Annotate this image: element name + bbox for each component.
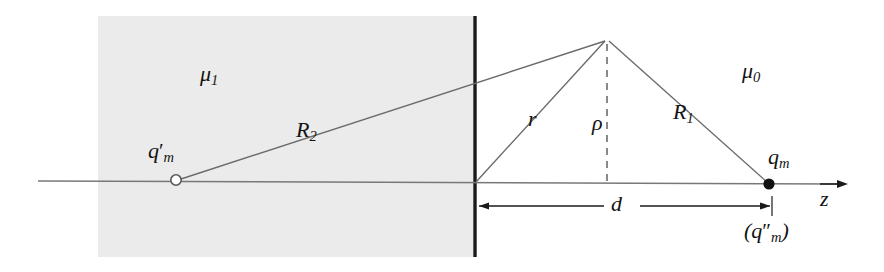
label-mu-0: μ0 xyxy=(742,60,760,85)
label-mu-1: μ1 xyxy=(200,63,218,88)
image-charge-open-circle xyxy=(171,175,181,185)
label-q-m-prime: q′m xyxy=(148,140,174,165)
label-R2: R2 xyxy=(296,119,317,144)
medium-region-mu1 xyxy=(98,16,473,257)
label-R1: R1 xyxy=(673,101,694,126)
label-q-m: qm xyxy=(768,146,789,171)
dimension-label-gap xyxy=(604,192,640,218)
label-d: d xyxy=(611,193,622,215)
magnetic-image-charge-figure: μ1 μ0 q′m R2 r ρ R1 qm d (q″m) z xyxy=(0,0,884,272)
label-r: r xyxy=(528,108,537,130)
label-q-m-double-prime: (q″m) xyxy=(744,220,789,245)
label-z-axis: z xyxy=(820,188,829,210)
source-charge-dot xyxy=(763,178,774,189)
label-rho: ρ xyxy=(592,112,603,134)
